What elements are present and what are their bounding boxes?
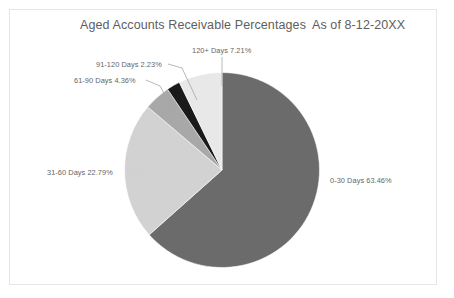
pie-label-61-90-days: 61-90 Days 4.36% <box>74 76 136 85</box>
pie-chart: 0-30 Days 63.46% 31-60 Days 22.79% 61-90… <box>0 0 454 298</box>
pie-chart-svg <box>0 0 454 298</box>
pie-label-91-120-days: 91-120 Days 2.23% <box>96 60 162 69</box>
pie-label-31-60-days: 31-60 Days 22.79% <box>47 168 113 177</box>
pie-label-0-30-days: 0-30 Days 63.46% <box>330 176 392 185</box>
pie-slice-group <box>125 73 320 268</box>
pie-label-120-plus-days: 120+ Days 7.21% <box>192 46 251 55</box>
